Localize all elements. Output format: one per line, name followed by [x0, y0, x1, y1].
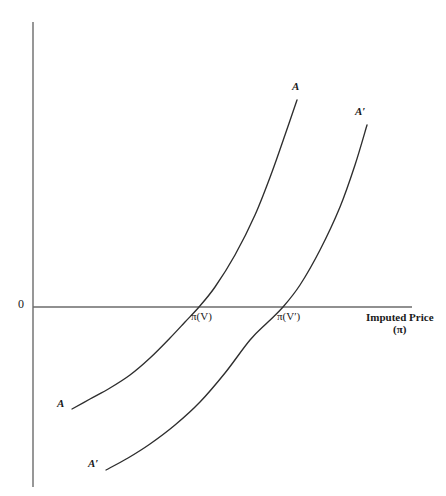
curve-a — [72, 100, 297, 409]
curve-a-prime-top-label: A′ — [355, 106, 365, 118]
plot-canvas — [0, 0, 446, 496]
x-intercept-label-2: π(V′) — [277, 311, 300, 323]
curve-a-prime — [106, 125, 367, 470]
curve-a-top-label: A — [292, 81, 299, 93]
x-intercept-label-1: π(V) — [191, 311, 212, 323]
x-axis-title-line-1: Imputed Price — [366, 312, 434, 324]
x-axis-title-line-2: (π) — [366, 324, 434, 336]
economics-figure: 0 A A A′ A′ π(V) π(V′) Imputed Price (π) — [0, 0, 446, 496]
curve-a-bottom-label: A — [57, 398, 64, 410]
origin-label: 0 — [18, 298, 24, 311]
curve-a-prime-bottom-label: A′ — [88, 458, 98, 470]
x-axis-title: Imputed Price (π) — [366, 312, 434, 335]
